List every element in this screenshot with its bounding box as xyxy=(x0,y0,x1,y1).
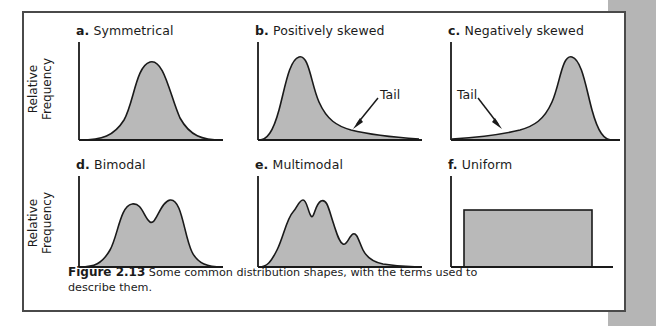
tail-annotation-c: Tail xyxy=(457,87,477,102)
figure-caption: Figure 2.13 Some common distribution sha… xyxy=(68,265,498,295)
panel-letter-a: a. xyxy=(76,23,89,38)
panel-letter-e: e. xyxy=(255,157,268,172)
figure-page: a. Symmetrical Relative Frequency b. xyxy=(0,0,656,326)
panel-label-c: Negatively skewed xyxy=(464,23,584,38)
figure-box: a. Symmetrical Relative Frequency b. xyxy=(22,11,626,312)
panel-letter-b: b. xyxy=(255,23,269,38)
panel-title-b: b. Positively skewed xyxy=(255,23,385,38)
panel-letter-f: f. xyxy=(448,157,458,172)
panel-title-a: a. Symmetrical xyxy=(76,23,173,38)
panel-positively-skewed: b. Positively skewed Tail xyxy=(239,23,429,148)
uniform-rectangle xyxy=(464,210,592,267)
panel-multimodal: e. Multimodal xyxy=(239,157,429,272)
curve-fill-d xyxy=(80,200,222,267)
panel-letter-c: c. xyxy=(448,23,460,38)
curve-fill-a xyxy=(80,62,222,140)
tail-arrow-head-c xyxy=(492,118,502,129)
figure-caption-label: Figure 2.13 xyxy=(68,265,145,279)
panel-label-f: Uniform xyxy=(462,157,512,172)
panel-title-d: d. Bimodal xyxy=(76,157,146,172)
panel-label-b: Positively skewed xyxy=(273,23,385,38)
panel-label-d: Bimodal xyxy=(94,157,146,172)
tail-annotation-b: Tail xyxy=(380,87,400,102)
panel-uniform: f. Uniform xyxy=(436,157,626,272)
panel-grid: a. Symmetrical Relative Frequency b. xyxy=(24,13,628,263)
panel-label-a: Symmetrical xyxy=(93,23,173,38)
tail-arrow-head-b xyxy=(353,118,363,129)
distribution-curve-bimodal xyxy=(74,174,224,274)
panel-letter-d: d. xyxy=(76,157,90,172)
y-axis-label-a: Relative Frequency xyxy=(26,41,56,137)
panel-label-e: Multimodal xyxy=(273,157,343,172)
panel-negatively-skewed: c. Negatively skewed Tail xyxy=(436,23,626,148)
distribution-curve-multimodal xyxy=(253,174,423,274)
distribution-curve-symmetrical xyxy=(74,40,224,148)
distribution-curve-uniform xyxy=(446,174,621,274)
panel-title-c: c. Negatively skewed xyxy=(448,23,584,38)
panel-title-e: e. Multimodal xyxy=(255,157,343,172)
panel-title-f: f. Uniform xyxy=(448,157,512,172)
y-axis-label-d: Relative Frequency xyxy=(26,175,56,271)
panel-symmetrical: a. Symmetrical Relative Frequency xyxy=(30,23,220,148)
panel-bimodal: d. Bimodal Relative Frequency xyxy=(30,157,220,272)
